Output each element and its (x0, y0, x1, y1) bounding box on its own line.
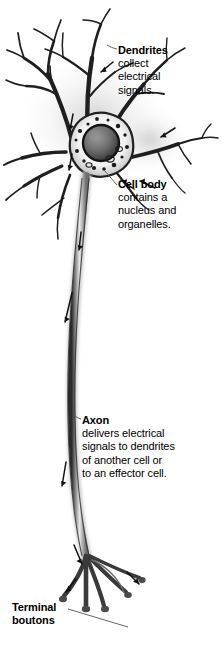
label-terminal-boutons: Terminal boutons (12, 601, 56, 627)
label-axon-line-3: of another cell or (82, 454, 175, 467)
label-axon-line-2: signals to dendrites (82, 440, 175, 453)
label-cell-body-heading: Cell body (118, 178, 176, 191)
label-terminal-boutons-heading: Terminal (12, 601, 56, 614)
label-cell-body-line-3: organelles. (118, 218, 176, 231)
label-axon-line-1: delivers electrical (82, 427, 175, 440)
label-axon-heading: Axon (82, 414, 175, 427)
label-terminal-boutons-line-1: boutons (12, 614, 56, 627)
label-dendrites-line-1: collect (118, 57, 168, 70)
neuron-diagram (0, 0, 222, 648)
label-dendrites: Dendrites collect electrical signals. (118, 44, 168, 97)
label-dendrites-line-2: electrical (118, 70, 168, 83)
cell-body-soma (70, 113, 134, 177)
label-axon-line-4: to an effector cell. (82, 467, 175, 480)
label-dendrites-heading: Dendrites (118, 44, 168, 57)
label-cell-body-line-2: nucleus and (118, 204, 176, 217)
label-cell-body: Cell body contains a nucleus and organel… (118, 178, 176, 231)
label-axon: Axon delivers electrical signals to dend… (82, 414, 175, 480)
label-dendrites-line-3: signals. (118, 84, 168, 97)
nucleus (83, 125, 119, 161)
label-cell-body-line-1: contains a (118, 191, 176, 204)
